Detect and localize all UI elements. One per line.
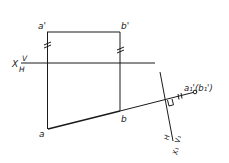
projector-ab-extension [120,93,193,112]
label-a1-b1: a₁'(b₁') [184,83,213,93]
label-axis-x: X [11,59,19,69]
label-a: a [39,129,45,139]
label-axis-v: V [22,54,28,63]
label-axis1-h: H [163,133,172,140]
label-axis1-v1: V₁ [174,135,183,144]
projection-diagram: a' b' a b a₁'(b₁') X V H V₁ H X₁ [0,0,229,163]
line-ab [48,111,120,129]
label-axis1-x1: X₁ [171,146,181,156]
label-b-prime: b' [121,21,129,31]
label-axis-h: H [19,65,25,74]
perpendicular-mark-icon [168,99,174,106]
axis-x1 [160,72,173,141]
label-b: b [121,114,127,124]
label-a-prime: a' [38,21,46,31]
